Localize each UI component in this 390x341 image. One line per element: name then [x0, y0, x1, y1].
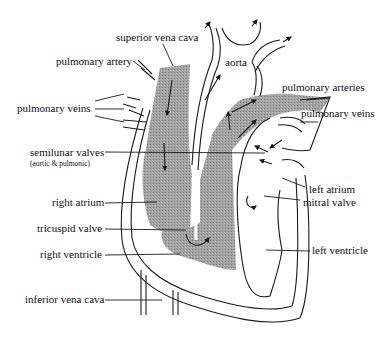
labels: superior vena cava pulmonary artery aort…: [17, 31, 375, 305]
label-semilunar-valves: semilunar valves: [30, 146, 104, 158]
label-left-ventricle: left ventricle: [312, 244, 368, 256]
label-pulmonary-veins-left: pulmonary veins: [17, 102, 91, 114]
label-aorta: aorta: [225, 56, 247, 68]
label-mitral-valve: mitral valve: [303, 196, 356, 208]
label-pulmonary-artery: pulmonary artery: [56, 55, 133, 67]
right-heart-shaded-region: [143, 64, 330, 270]
label-right-ventricle: right ventricle: [40, 248, 102, 260]
label-semilunar-valves-note: (aortic & pulmonic): [30, 159, 90, 168]
pulmonary-veins-right-vessels: [278, 117, 305, 168]
label-inferior-vena-cava: inferior vena cava: [25, 293, 105, 305]
label-pulmonary-arteries: pulmonary arteries: [282, 81, 365, 93]
label-superior-vena-cava: superior vena cava: [116, 31, 199, 43]
label-right-atrium: right atrium: [52, 196, 105, 208]
label-pulmonary-veins-right: pulmonary veins: [301, 107, 375, 119]
label-tricuspid-valve: tricuspid valve: [37, 222, 102, 234]
heart-diagram: superior vena cava pulmonary artery aort…: [0, 0, 390, 341]
label-left-atrium: left atrium: [309, 183, 356, 195]
